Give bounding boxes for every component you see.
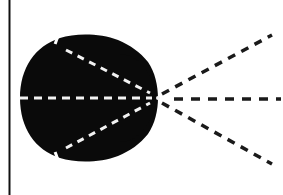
diagram <box>0 0 283 195</box>
diagram-canvas <box>0 0 283 195</box>
outer-ray-lower <box>162 103 272 164</box>
outer-ray-upper <box>162 35 272 94</box>
focal-point <box>156 96 160 100</box>
